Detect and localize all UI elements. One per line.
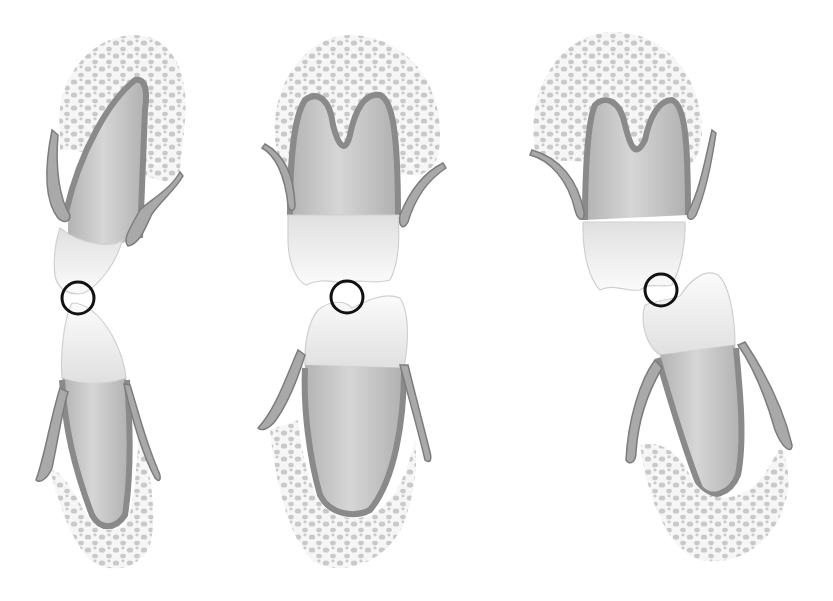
lower-crown-middle	[305, 296, 408, 368]
panel-left	[36, 35, 186, 568]
panel-middle	[258, 35, 446, 568]
lower-gum-middle-a	[258, 350, 305, 430]
panel-right	[530, 32, 792, 561]
lower-gum-left-a	[36, 388, 68, 481]
lower-crown-left	[61, 303, 126, 383]
upper-crown-middle	[288, 215, 399, 285]
upper-crown-right	[583, 222, 685, 290]
lower-gum-right-b	[738, 342, 792, 450]
dental-illustration	[0, 0, 833, 601]
